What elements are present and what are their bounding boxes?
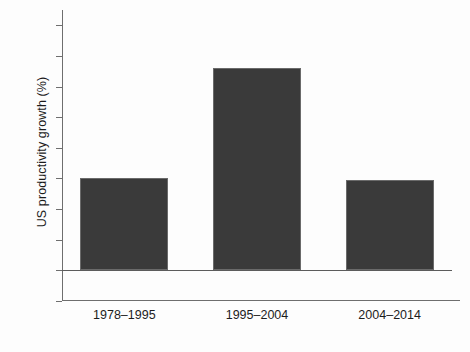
y-axis-tick — [56, 56, 62, 57]
y-axis-tick — [56, 25, 62, 26]
plot-area: −0.500.511.522.533.54 — [62, 10, 460, 301]
x-axis-spine — [62, 300, 460, 301]
x-axis-tick-label: 1978–1995 — [93, 308, 156, 322]
y-axis-tick — [56, 178, 62, 179]
y-axis-tick — [56, 148, 62, 149]
bar — [80, 178, 168, 270]
chart-figure: US productivity growth (%) −0.500.511.52… — [0, 0, 470, 352]
x-axis-tick-label: 1995–2004 — [226, 308, 289, 322]
bar — [346, 180, 434, 270]
y-axis-tick — [56, 270, 62, 271]
bar — [213, 68, 301, 270]
y-axis-tick — [56, 87, 62, 88]
y-axis-tick — [56, 240, 62, 241]
y-axis-spine — [62, 10, 63, 301]
y-axis-tick — [56, 209, 62, 210]
y-axis-tick — [56, 117, 62, 118]
x-axis-tick-label: 2004–2014 — [358, 308, 421, 322]
y-axis-tick — [56, 301, 62, 302]
y-axis-title: US productivity growth (%) — [35, 32, 49, 272]
zero-baseline — [62, 270, 452, 271]
